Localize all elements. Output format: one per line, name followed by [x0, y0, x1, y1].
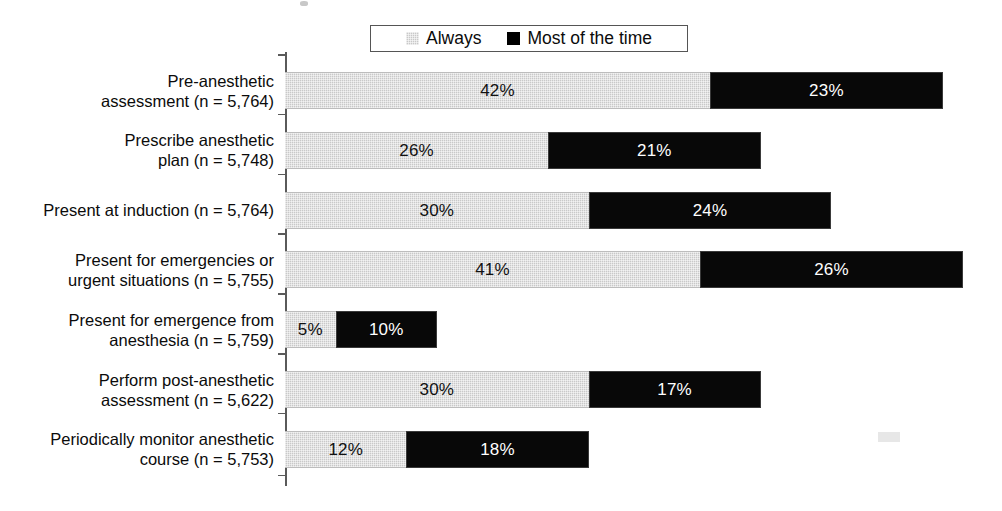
category-label: Prescribe anesthetic plan (n = 5,748) — [0, 130, 274, 170]
chart-legend: Always Most of the time — [370, 25, 688, 52]
bar-row: Present for emergencies or urgent situat… — [0, 251, 1002, 288]
bar-value-label: 26% — [399, 142, 434, 159]
stacked-bar-chart: Always Most of the time Pre-anesthetic a… — [0, 0, 1002, 511]
axis-tick — [278, 475, 285, 477]
axis-tick — [278, 353, 285, 355]
bar-row: Present at induction (n = 5,764)30%24% — [0, 192, 1002, 229]
category-label: Perform post-anesthetic assessment (n = … — [0, 370, 274, 410]
bar-segment-most-of-the-time: 26% — [700, 251, 963, 288]
category-label: Present at induction (n = 5,764) — [0, 200, 274, 220]
bar-segment-most-of-the-time: 21% — [548, 132, 761, 169]
bar-value-label: 30% — [419, 381, 454, 398]
bar-segment-always: 5% — [285, 311, 336, 348]
bar-row: Perform post-anesthetic assessment (n = … — [0, 371, 1002, 408]
bar-segment-always: 41% — [285, 251, 700, 288]
bar-row: Present for emergence from anesthesia (n… — [0, 311, 1002, 348]
bar-value-label: 26% — [814, 261, 849, 278]
axis-tick — [278, 114, 285, 116]
bar-segment-always: 30% — [285, 371, 589, 408]
bar-value-label: 10% — [369, 321, 404, 338]
legend-label-most-of-the-time: Most of the time — [527, 30, 652, 48]
scan-artifact — [300, 1, 308, 6]
bar-value-label: 41% — [475, 261, 510, 278]
bar-value-label: 30% — [419, 202, 454, 219]
bar-value-label: 42% — [480, 82, 515, 99]
axis-tick — [278, 174, 285, 176]
legend-item-most-of-the-time: Most of the time — [507, 30, 652, 48]
category-label: Pre-anesthetic assessment (n = 5,764) — [0, 71, 274, 111]
bar-row: Prescribe anesthetic plan (n = 5,748)26%… — [0, 132, 1002, 169]
axis-tick — [278, 233, 285, 235]
category-label: Present for emergencies or urgent situat… — [0, 250, 274, 290]
bar-segment-always: 26% — [285, 132, 548, 169]
axis-tick — [278, 413, 285, 415]
bar-value-label: 17% — [657, 381, 692, 398]
bar-segment-always: 12% — [285, 431, 406, 468]
bar-value-label: 23% — [809, 82, 844, 99]
bar-value-label: 5% — [298, 321, 323, 338]
bar-value-label: 18% — [480, 441, 515, 458]
bar-segment-most-of-the-time: 10% — [336, 311, 437, 348]
bar-value-label: 21% — [637, 142, 672, 159]
bar-segment-most-of-the-time: 23% — [710, 72, 943, 109]
bar-segment-always: 42% — [285, 72, 710, 109]
axis-tick — [278, 293, 285, 295]
legend-item-always: Always — [406, 30, 481, 48]
category-label: Present for emergence from anesthesia (n… — [0, 310, 274, 350]
bar-segment-most-of-the-time: 18% — [406, 431, 588, 468]
bar-value-label: 12% — [328, 441, 363, 458]
bar-row: Periodically monitor anesthetic course (… — [0, 431, 1002, 468]
bar-segment-always: 30% — [285, 192, 589, 229]
bar-value-label: 24% — [693, 202, 728, 219]
bar-segment-most-of-the-time: 17% — [589, 371, 761, 408]
gray-swatch-icon — [406, 32, 419, 45]
bar-segment-most-of-the-time: 24% — [589, 192, 832, 229]
bar-row: Pre-anesthetic assessment (n = 5,764)42%… — [0, 72, 1002, 109]
legend-label-always: Always — [426, 30, 481, 48]
category-label: Periodically monitor anesthetic course (… — [0, 429, 274, 469]
black-swatch-icon — [507, 32, 520, 45]
axis-tick — [278, 54, 285, 56]
